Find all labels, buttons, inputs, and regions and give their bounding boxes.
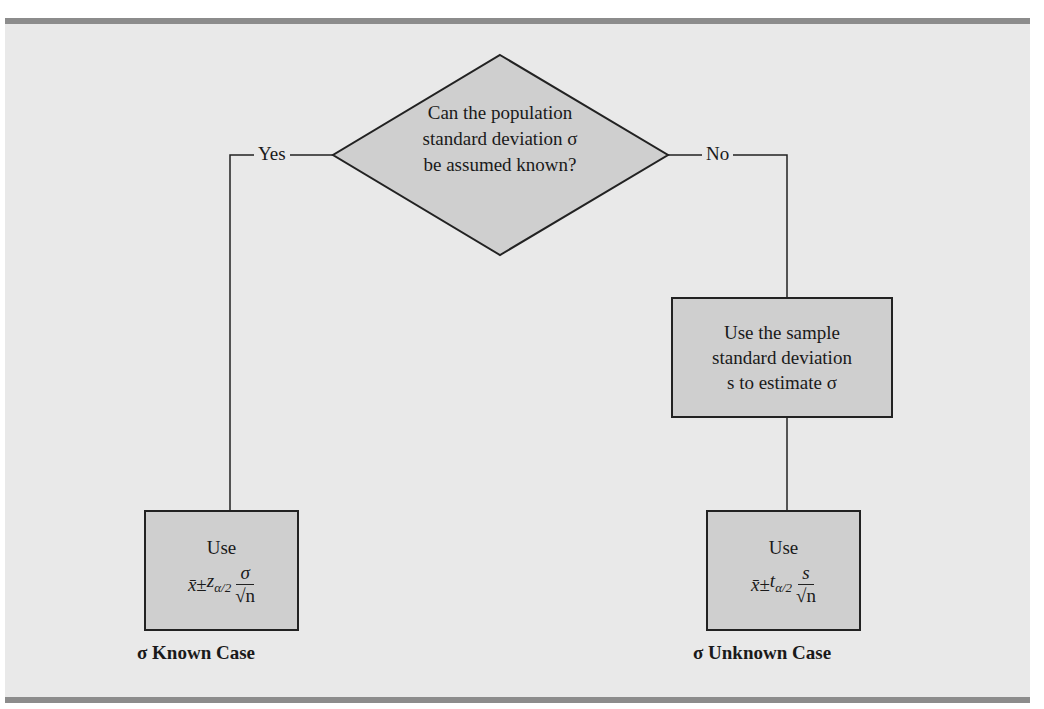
estimate-sigma-box: Use the sample standard deviation s to e…	[671, 297, 893, 418]
denominator: √n	[235, 585, 255, 607]
fraction: σ √n	[235, 562, 255, 607]
no-label: No	[702, 143, 733, 165]
yes-label: Yes	[254, 143, 290, 165]
use-label: Use	[769, 535, 799, 560]
known-case-caption: σ Known Case	[137, 642, 255, 664]
estimate-line-1: Use the sample	[724, 320, 840, 345]
crit-sub: α/2	[214, 580, 231, 595]
decision-line-2: standard deviation σ	[400, 126, 600, 152]
xbar: x̄	[751, 572, 759, 597]
unknown-formula: x̄ ± tα/2 s √n	[751, 562, 816, 607]
z-critical: zα/2	[207, 568, 231, 600]
unknown-case-caption: σ Unknown Case	[693, 642, 831, 664]
fraction: s √n	[796, 562, 816, 607]
known-case-box: Use x̄ ± zα/2 σ √n	[144, 510, 299, 631]
use-label: Use	[207, 535, 237, 560]
estimate-line-3: s to estimate σ	[727, 370, 837, 395]
unknown-case-box: Use x̄ ± tα/2 s √n	[706, 510, 861, 631]
decision-line-1: Can the population	[400, 100, 600, 126]
crit-sub: α/2	[775, 580, 792, 595]
estimate-line-2: standard deviation	[712, 345, 852, 370]
known-formula: x̄ ± zα/2 σ √n	[188, 562, 255, 607]
numerator: s	[798, 562, 813, 585]
plus-minus: ±	[196, 572, 206, 597]
decision-question: Can the population standard deviation σ …	[400, 100, 600, 178]
decision-line-3: be assumed known?	[400, 152, 600, 178]
plus-minus: ±	[759, 572, 769, 597]
numerator: σ	[236, 562, 253, 585]
xbar: x̄	[188, 572, 196, 597]
denominator: √n	[796, 585, 816, 607]
t-critical: tα/2	[770, 568, 792, 600]
